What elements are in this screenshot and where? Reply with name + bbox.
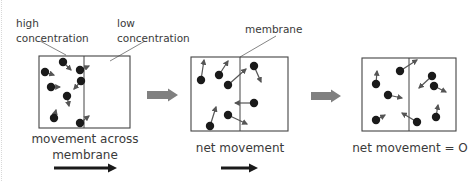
particle [372, 116, 380, 124]
particle [77, 77, 85, 85]
particle [413, 118, 421, 126]
particle [430, 82, 438, 90]
low-concentration-leader [110, 41, 145, 61]
particle [63, 92, 71, 100]
particle [215, 71, 223, 79]
panel-initial [39, 56, 130, 128]
particle [428, 72, 436, 80]
step-arrow-icon-1 [147, 89, 178, 102]
particle [206, 122, 214, 130]
particle [372, 80, 380, 88]
particle [41, 68, 49, 76]
direction-arrowhead-icon [108, 164, 117, 173]
membrane-leader [240, 36, 276, 57]
particle [197, 76, 205, 84]
particle [76, 119, 84, 127]
step-arrow-icon-2 [311, 90, 341, 103]
label-low-concentration: concentration [117, 32, 190, 44]
panel-equilibrium [362, 58, 456, 131]
panel-diffusing [191, 57, 288, 131]
direction-arrowhead-icon [249, 164, 258, 173]
particle [47, 83, 55, 91]
particle [59, 58, 67, 66]
particle [384, 91, 392, 99]
label-membrane: membrane [245, 23, 302, 35]
label-high-concentration: concentration [16, 32, 89, 44]
caption-movement-across: movement across [31, 132, 138, 146]
particle [224, 81, 232, 89]
particle [76, 66, 84, 74]
label-high: high [16, 17, 39, 29]
particle [250, 62, 258, 70]
caption-net-movement: net movement [196, 141, 285, 155]
caption-membrane: membrane [52, 148, 118, 162]
particle [224, 111, 232, 119]
caption-net-movement-zero: net movement = O [352, 141, 468, 155]
particle [396, 67, 404, 75]
diffusion-diagram: high concentration low concentration mem… [0, 0, 469, 181]
label-low: low [117, 17, 135, 29]
particle [250, 99, 258, 107]
particle [50, 114, 58, 122]
particle [432, 113, 440, 121]
